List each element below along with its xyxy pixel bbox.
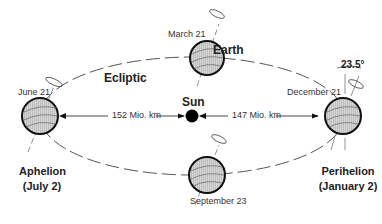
tilt-angle-label: 23.5° xyxy=(341,60,364,70)
earth-orbit-diagram: March 21 Earth Ecliptic June 21 December… xyxy=(0,0,382,224)
aphelion-distance-label: 152 Mio. km xyxy=(112,111,161,120)
date-label-september: September 23 xyxy=(190,197,247,206)
date-label-december: December 21 xyxy=(287,88,341,97)
perihelion-distance-label: 147 Mio. km xyxy=(232,111,281,120)
ecliptic-label: Ecliptic xyxy=(104,72,147,84)
sun-icon xyxy=(186,110,199,123)
perihelion-date: (January 2) xyxy=(314,181,382,192)
perihelion-label: Perihelion xyxy=(318,166,378,177)
aphelion-label: Aphelion xyxy=(19,166,65,177)
aphelion-date: (July 2) xyxy=(19,181,65,192)
date-label-june: June 21 xyxy=(18,88,50,97)
sun-label: Sun xyxy=(182,96,205,108)
earth-globe-september xyxy=(189,133,228,205)
earth-globe-december xyxy=(325,66,365,150)
earth-label: Earth xyxy=(213,44,244,56)
date-label-march: March 21 xyxy=(168,30,206,39)
